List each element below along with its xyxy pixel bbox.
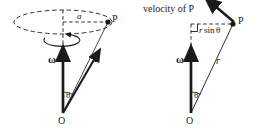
label-omega-left: ω — [48, 54, 56, 65]
label-r-right: r — [216, 56, 220, 66]
label-velocity-of-p: velocity of P — [143, 4, 194, 14]
r-vector-arrow — [63, 58, 95, 113]
label-r-sin-theta-theta: θ — [216, 25, 220, 35]
label-omega-right: ω — [176, 54, 184, 65]
label-r-sin-theta-r: r — [199, 25, 203, 35]
label-point-p-left: P — [112, 14, 118, 24]
label-theta-left: θ — [66, 91, 70, 100]
rotation-direction-arrow — [44, 35, 80, 47]
label-r-sin-theta-sin: sin — [204, 25, 215, 35]
label-r-vector-left: r — [94, 54, 98, 64]
physics-diagram-figure: a P ω r θ O velocity of P P rsinθ ω r θ … — [0, 0, 258, 130]
right-angle-marker — [191, 24, 198, 32]
label-radius-a: a — [77, 12, 82, 21]
point-p-marker-right — [230, 21, 235, 26]
velocity-vector-arrow — [215, 6, 234, 22]
point-p-marker — [105, 19, 110, 24]
label-origin-right: O — [186, 116, 193, 126]
label-theta-right: θ — [194, 91, 198, 100]
label-point-p-right: P — [238, 16, 244, 26]
label-r-sin-theta: rsinθ — [199, 26, 220, 35]
label-origin-left: O — [58, 116, 65, 126]
